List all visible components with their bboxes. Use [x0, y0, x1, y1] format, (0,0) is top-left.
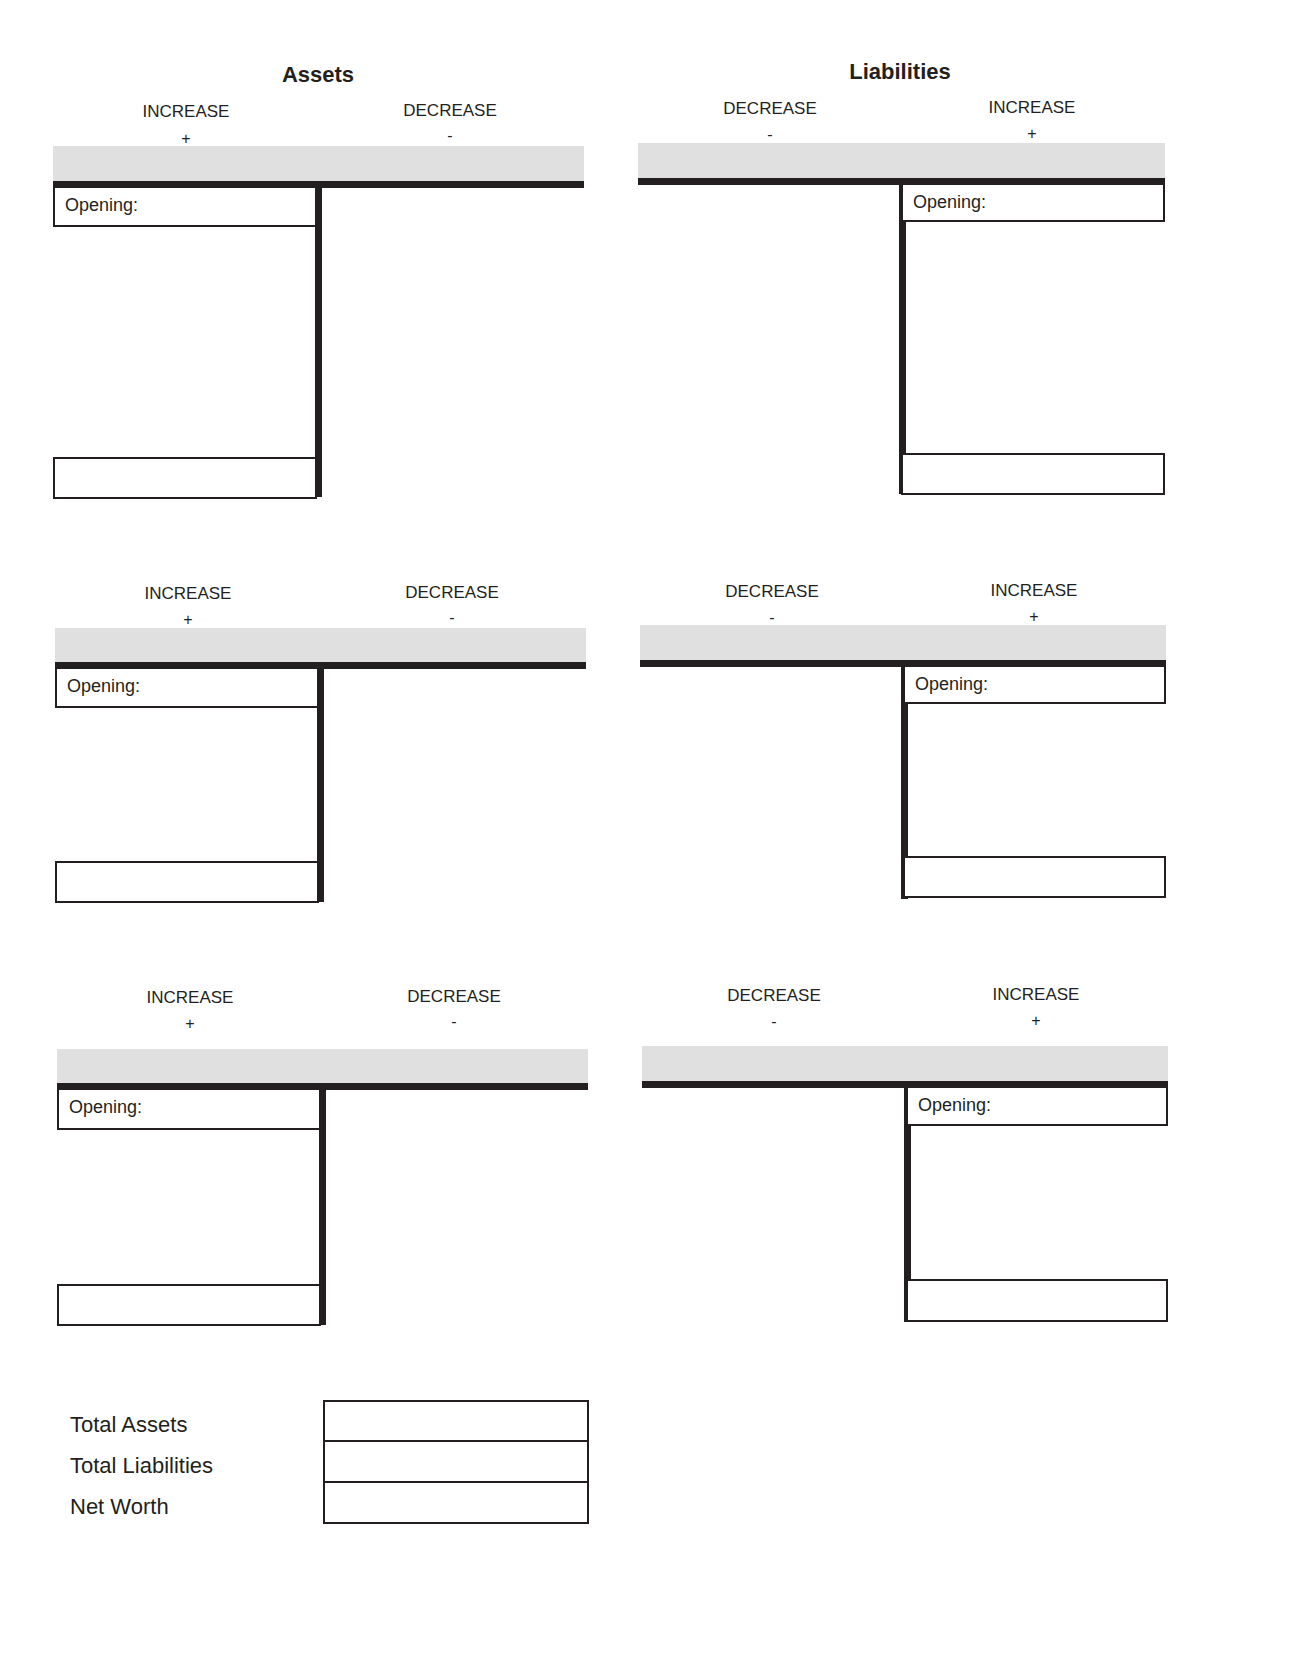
net-worth-field[interactable]: [323, 1481, 589, 1524]
minus-sign: -: [352, 610, 552, 626]
decrease-label: DECREASE: [354, 987, 554, 1007]
plus-sign: +: [88, 612, 288, 628]
plus-sign: +: [90, 1016, 290, 1032]
account-divider: [899, 178, 906, 494]
account-title-band[interactable]: [53, 146, 584, 183]
closing-balance-box[interactable]: [55, 861, 319, 903]
closing-balance-box[interactable]: [53, 457, 317, 499]
decrease-label: DECREASE: [670, 99, 870, 119]
plus-sign: +: [934, 609, 1134, 625]
account-title-band[interactable]: [55, 628, 586, 665]
asset-account-1: Opening:: [53, 146, 584, 500]
asset-account-3: Opening:: [57, 1049, 588, 1326]
opening-label: Opening:: [915, 674, 988, 695]
total-assets-label: Total Assets: [70, 1412, 187, 1438]
increase-label: INCREASE: [88, 584, 288, 604]
decrease-label: DECREASE: [350, 101, 550, 121]
opening-balance-box[interactable]: Opening:: [901, 183, 1165, 222]
account-title-band[interactable]: [638, 143, 1165, 180]
opening-balance-box[interactable]: Opening:: [57, 1088, 321, 1130]
minus-sign: -: [354, 1014, 554, 1030]
account-title-band[interactable]: [642, 1046, 1168, 1083]
account-title-band[interactable]: [640, 625, 1166, 662]
assets-heading: Assets: [218, 62, 418, 88]
closing-balance-box[interactable]: [903, 856, 1166, 898]
plus-sign: +: [936, 1013, 1136, 1029]
decrease-label: DECREASE: [672, 582, 872, 602]
page-title: PERSONAL BALANCE SHEET: [0, 0, 1291, 6]
liabilities-heading: Liabilities: [800, 59, 1000, 85]
increase-label: INCREASE: [932, 98, 1132, 118]
total-assets-field[interactable]: [323, 1400, 589, 1442]
opening-balance-box[interactable]: Opening:: [55, 667, 319, 708]
opening-label: Opening:: [918, 1095, 991, 1116]
minus-sign: -: [350, 128, 550, 144]
plus-sign: +: [86, 131, 286, 147]
increase-label: INCREASE: [86, 102, 286, 122]
account-divider: [315, 181, 322, 497]
minus-sign: -: [670, 127, 870, 143]
increase-label: INCREASE: [90, 988, 290, 1008]
liability-account-1: Opening:: [638, 143, 1165, 496]
total-liabilities-field[interactable]: [323, 1441, 589, 1483]
net-worth-label: Net Worth: [70, 1494, 169, 1520]
minus-sign: -: [674, 1014, 874, 1030]
closing-balance-box[interactable]: [906, 1279, 1168, 1322]
opening-balance-box[interactable]: Opening:: [53, 186, 317, 227]
closing-balance-box[interactable]: [901, 453, 1165, 495]
opening-label: Opening:: [913, 192, 986, 213]
closing-balance-box[interactable]: [57, 1284, 321, 1326]
account-title-band[interactable]: [57, 1049, 588, 1086]
increase-label: INCREASE: [934, 581, 1134, 601]
opening-label: Opening:: [65, 195, 138, 216]
liability-account-2: Opening:: [640, 625, 1166, 899]
decrease-label: DECREASE: [352, 583, 552, 603]
total-liabilities-label: Total Liabilities: [70, 1453, 213, 1479]
asset-account-2: Opening:: [55, 628, 586, 903]
increase-label: INCREASE: [936, 985, 1136, 1005]
liability-account-3: Opening:: [642, 1046, 1168, 1323]
opening-label: Opening:: [69, 1097, 142, 1118]
opening-balance-box[interactable]: Opening:: [903, 665, 1166, 704]
opening-label: Opening:: [67, 676, 140, 697]
decrease-label: DECREASE: [674, 986, 874, 1006]
opening-balance-box[interactable]: Opening:: [906, 1086, 1168, 1126]
minus-sign: -: [672, 610, 872, 626]
plus-sign: +: [932, 126, 1132, 142]
